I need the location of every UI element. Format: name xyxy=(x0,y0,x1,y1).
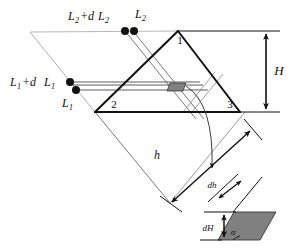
label-H: H xyxy=(273,63,284,78)
dot-l1 xyxy=(72,86,80,94)
label-l2-plus-dl2-group: L 2 +d L 2 xyxy=(67,9,109,25)
label-l1-plus-dl1-base: L xyxy=(9,75,17,89)
figure-container: H h dh dH α 1 2 3 xyxy=(0,0,307,248)
label-l2-plus-dl2-sub: 2 xyxy=(75,16,79,25)
label-vertex-1: 1 xyxy=(177,34,183,46)
label-l1-base: L xyxy=(61,96,69,110)
label-vertex-2: 2 xyxy=(111,98,117,110)
label-l2-plus-dl2-op: +d xyxy=(80,9,95,23)
label-dh: dh xyxy=(208,180,218,190)
label-l1-plus-dl1-base2: L xyxy=(43,75,51,89)
label-h: h xyxy=(154,148,160,162)
dot-l1-plus-dl1 xyxy=(66,78,74,86)
label-l1-plus-dl1-group: L 1 +d L 1 xyxy=(9,75,55,91)
label-dH: dH xyxy=(203,223,215,233)
label-l2-sub: 2 xyxy=(142,14,146,23)
label-vertex-3: 3 xyxy=(227,98,233,110)
label-l2-plus-dl2-sub2: 2 xyxy=(105,16,109,25)
label-l1-plus-dl1-sub: 1 xyxy=(17,82,21,91)
background xyxy=(0,0,307,248)
label-l2-plus-dl2-base2: L xyxy=(97,9,105,23)
label-l2-base: L xyxy=(134,7,142,21)
label-l1-plus-dl1-op: +d xyxy=(22,75,37,89)
label-l2-plus-dl2-base: L xyxy=(67,9,75,23)
label-l1-plus-dl1-sub2: 1 xyxy=(51,82,55,91)
dot-l2 xyxy=(130,27,138,35)
dot-l2-plus-dl2 xyxy=(121,27,129,35)
diagram-canvas: H h dh dH α 1 2 3 xyxy=(0,0,307,248)
shaded-differential-patch xyxy=(167,83,186,91)
label-l1-sub: 1 xyxy=(69,103,73,112)
label-alpha: α xyxy=(231,227,236,237)
